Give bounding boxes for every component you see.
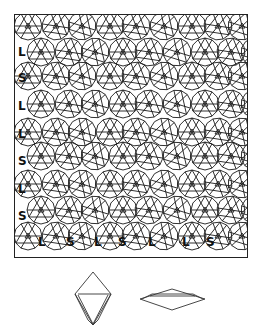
row-label: L [18, 46, 26, 58]
prototiles [0, 268, 265, 334]
column-label: L [148, 236, 156, 248]
row-label: L [18, 100, 26, 112]
row-label: L [18, 128, 26, 140]
row-label: S [18, 210, 27, 222]
column-label: L [94, 236, 102, 248]
quasiperiodic-tiling [14, 14, 248, 258]
row-label: S [18, 155, 27, 167]
column-label: S [206, 236, 215, 248]
column-label: L [38, 236, 46, 248]
column-label: S [118, 236, 127, 248]
prototile-rhombus-shape [140, 289, 205, 310]
column-label: L [182, 236, 190, 248]
column-label: S [66, 236, 75, 248]
prototile-kite-shape [75, 272, 111, 325]
row-label: L [18, 183, 26, 195]
row-label: S [18, 72, 27, 84]
